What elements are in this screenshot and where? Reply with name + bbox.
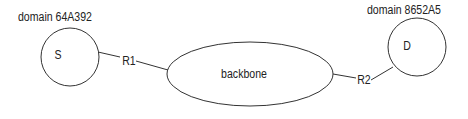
source-domain-label: domain 64A392 <box>18 10 92 24</box>
source-node-circle <box>41 28 99 86</box>
router-r1-label: R1 <box>122 54 136 68</box>
source-node-label: S <box>54 48 61 62</box>
destination-node-circle <box>388 18 446 76</box>
destination-domain-label: domain 8652A5 <box>367 3 441 17</box>
edge-s-r1 <box>98 52 120 57</box>
edge-r1-backbone <box>136 61 168 70</box>
destination-node-label: D <box>403 39 411 53</box>
edge-backbone-r2 <box>333 74 356 78</box>
backbone-label: backbone <box>221 67 267 81</box>
edge-r2-d <box>371 67 393 80</box>
router-r2-label: R2 <box>357 73 371 87</box>
